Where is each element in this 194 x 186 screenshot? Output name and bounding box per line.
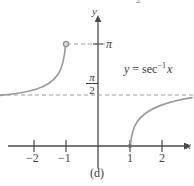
open-endpoint-marker [63,41,68,46]
closed-endpoint-marker [128,144,132,148]
half-pi-denominator: 2 [85,85,99,96]
equation-exponent: −1 [157,61,166,70]
half-pi-label: π 2 [85,72,99,96]
x-axis [8,143,191,150]
pi-label: π [106,38,112,50]
x-tick-label-1: 1 [127,152,133,164]
figure-caption: (d) [0,166,194,181]
half-pi-numerator: π [85,72,99,82]
equation-lhs: y [124,62,129,76]
equation-equals: = [132,62,139,76]
y-axis-label: y [92,6,97,17]
equation-function: sec [142,62,157,76]
x-tick-label-2: 2 [159,152,165,164]
equation-argument: x [167,62,172,76]
curve-right-branch [130,98,192,145]
x-axis-label: x [186,140,191,151]
equation-label: y=sec−1x [124,62,172,75]
curve-left-branch [0,46,66,96]
x-tick-label-neg2: −2 [26,152,39,164]
x-tick-label-neg1: −1 [58,152,71,164]
